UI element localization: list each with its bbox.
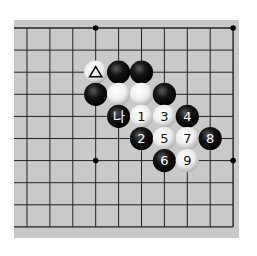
star-point-icon [93, 158, 99, 164]
stone-label: 7 [183, 131, 191, 146]
stone-label: 2 [137, 131, 145, 146]
black-stone-icon [107, 61, 130, 84]
white-stone: 1 [130, 105, 153, 128]
black-stone: 8 [199, 127, 222, 150]
black-stone [153, 83, 176, 106]
stone-label: 8 [206, 131, 214, 146]
black-stone: 나 [107, 105, 130, 128]
black-stone-icon [84, 83, 107, 106]
white-stone-icon [84, 61, 107, 84]
star-point-icon [230, 25, 236, 31]
black-stone [84, 83, 107, 106]
white-stone [130, 83, 153, 106]
star-point-icon [93, 25, 99, 31]
white-stone: 9 [176, 149, 199, 172]
stone-label: 5 [160, 131, 168, 146]
star-point-icon [230, 158, 236, 164]
black-stone-icon [130, 61, 153, 84]
white-stone: 5 [153, 127, 176, 150]
white-stone [84, 61, 107, 84]
stone-label: 9 [183, 153, 191, 168]
black-stone [130, 61, 153, 84]
white-stone [107, 83, 130, 106]
black-stone: 2 [130, 127, 153, 150]
black-stone: 6 [153, 149, 176, 172]
stone-label: 1 [137, 109, 145, 124]
stone-label: 나 [113, 109, 125, 124]
white-stone: 7 [176, 127, 199, 150]
white-stone-icon [130, 83, 153, 106]
white-stone: 3 [153, 105, 176, 128]
go-board-grid: 나134257869 [0, 0, 257, 256]
black-stone [107, 61, 130, 84]
stone-label: 6 [160, 153, 168, 168]
grid-lines [14, 28, 233, 227]
stone-label: 4 [183, 109, 191, 124]
black-stone-icon [153, 83, 176, 106]
stone-label: 3 [160, 109, 168, 124]
white-stone-icon [107, 83, 130, 106]
black-stone: 4 [176, 105, 199, 128]
